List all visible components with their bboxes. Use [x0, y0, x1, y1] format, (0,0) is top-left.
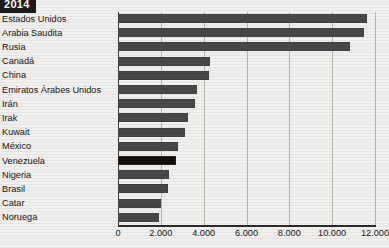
x-tick-label: 6.000 — [235, 228, 258, 238]
category-label: Nigeria — [2, 170, 31, 180]
bar-row[interactable] — [118, 69, 375, 83]
bar-row[interactable] — [118, 55, 375, 69]
bar-rusia[interactable] — [118, 42, 350, 51]
category-label: Catar — [2, 198, 24, 208]
bar-row[interactable] — [118, 26, 375, 40]
oil-production-bar-chart: 2014 Estados UnidosArabia SauditaRusiaCa… — [0, 0, 389, 248]
category-label: Rusia — [2, 42, 26, 52]
bar-row[interactable] — [118, 40, 375, 54]
category-label: Estados Unidos — [2, 14, 66, 24]
plot-area — [118, 12, 375, 225]
category-label: Irak — [2, 113, 17, 123]
category-label: China — [2, 70, 26, 80]
bar-méxico[interactable] — [118, 142, 178, 151]
x-axis-line — [118, 225, 376, 227]
bar-row[interactable] — [118, 126, 375, 140]
category-label: Emiratos Árabes Unidos — [2, 85, 101, 95]
bar-row[interactable] — [118, 83, 375, 97]
bar-estados-unidos[interactable] — [118, 14, 367, 23]
category-label-column: Estados UnidosArabia SauditaRusiaCanadáC… — [2, 12, 116, 225]
x-tick-label: 12.000 — [361, 228, 389, 238]
category-label: Arabia Saudita — [2, 28, 62, 38]
bar-row[interactable] — [118, 97, 375, 111]
bar-row[interactable] — [118, 197, 375, 211]
bar-row[interactable] — [118, 111, 375, 125]
bar-rows — [118, 12, 375, 225]
bar-venezuela[interactable] — [118, 156, 176, 165]
bar-row[interactable] — [118, 211, 375, 225]
x-axis-tick-labels: 02.0004.0006.0008.00010.00012.000 — [118, 228, 375, 244]
bar-irán[interactable] — [118, 99, 195, 108]
gridline-12000 — [375, 12, 376, 225]
category-label: México — [2, 141, 31, 151]
category-label: Canadá — [2, 56, 34, 66]
bar-china[interactable] — [118, 71, 209, 80]
bar-row[interactable] — [118, 12, 375, 26]
bar-canadá[interactable] — [118, 57, 210, 66]
x-tick-label: 0 — [115, 228, 120, 238]
x-tick-label: 10.000 — [318, 228, 346, 238]
bar-brasil[interactable] — [118, 184, 168, 193]
category-label: Noruega — [2, 212, 37, 222]
bar-nigeria[interactable] — [118, 170, 169, 179]
x-tick-label: 8.000 — [278, 228, 301, 238]
category-label: Irán — [2, 99, 18, 109]
x-tick-label: 4.000 — [192, 228, 215, 238]
bar-irak[interactable] — [118, 113, 188, 122]
bar-noruega[interactable] — [118, 213, 159, 222]
category-label: Kuwait — [2, 127, 30, 137]
x-tick-label: 2.000 — [149, 228, 172, 238]
bar-row[interactable] — [118, 182, 375, 196]
bar-arabia-saudita[interactable] — [118, 28, 364, 37]
bar-row[interactable] — [118, 154, 375, 168]
category-label: Venezuela — [2, 156, 45, 166]
bar-row[interactable] — [118, 140, 375, 154]
category-label: Brasil — [2, 184, 25, 194]
bar-emiratos-árabes-unidos[interactable] — [118, 85, 197, 94]
bar-catar[interactable] — [118, 199, 161, 208]
bar-row[interactable] — [118, 168, 375, 182]
bar-kuwait[interactable] — [118, 128, 185, 137]
